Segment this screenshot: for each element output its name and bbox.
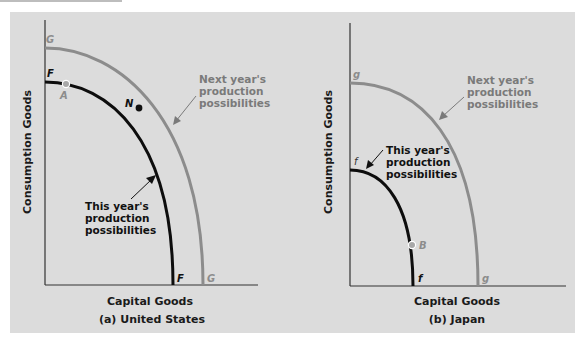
svg-text:Next year's production: Next year's production possibilities [199,73,270,109]
annotation-line: possibilities [199,97,270,109]
panel-caption-b: (b) Japan [429,313,485,326]
annotation-line: production [85,212,149,224]
next-year-ppf-curve-b [350,83,478,286]
y-axis-label-a: Consumption Goods [21,90,34,214]
svg-text:This year's production: This year's production possibilities [85,200,156,236]
x-axis-label-a: Capital Goods [107,295,193,308]
annotation-next-year-a: Next year's production possibilities [173,73,270,125]
curve-start-label-G: G [46,34,54,45]
annotation-this-year-a: This year's production possibilities [85,175,156,236]
arrow-line [443,97,464,116]
annotation-line: Next year's [199,73,266,85]
annotation-line: This year's [85,200,149,212]
this-year-ppf-curve-b [350,170,413,286]
curve-start-label-f: f [354,156,359,167]
annotation-line: production [199,85,263,97]
annotation-line: production [467,86,531,98]
annotation-line: production [386,156,450,168]
annotation-line: possibilities [85,224,156,236]
this-year-ppf-curve-a [45,82,173,285]
x-axis-label-b: Capital Goods [414,295,500,308]
curve-end-label-G: G [207,273,215,284]
curve-end-label-f: f [418,273,424,284]
arrowhead-icon [173,116,181,125]
arrow-line [131,179,152,199]
curve-end-label-g: g [482,273,489,284]
point-label-A: A [59,90,68,101]
annotation-line: Next year's [467,74,534,86]
curve-start-label-F: F [47,68,54,79]
annotation-this-year-b: This year's production possibilities [366,144,457,180]
panel-caption-a: (a) United States [99,313,206,326]
svg-text:This year's production: This year's production possibilities [386,144,457,180]
arrow-line [370,150,383,165]
curve-end-label-F: F [177,273,184,284]
point-B [408,241,415,248]
point-N [136,105,143,112]
panel-united-states: G F F G A N Next year's production possi… [21,20,270,326]
y-axis-label-b: Consumption Goods [322,90,335,214]
arrow-line [176,96,196,121]
annotation-line: This year's [386,144,450,156]
point-A [62,80,69,87]
curve-start-label-g: g [353,69,360,80]
annotation-next-year-b: Next year's production possibilities [439,74,538,120]
annotation-line: possibilities [467,98,538,110]
annotation-line: possibilities [386,168,457,180]
point-label-N: N [125,98,134,109]
svg-text:Next year's production: Next year's production possibilities [467,74,538,110]
ppf-figure: G F F G A N Next year's production possi… [0,0,587,342]
point-label-B: B [419,240,427,251]
panel-japan: g f f g B Next year's production possibi… [322,23,566,326]
